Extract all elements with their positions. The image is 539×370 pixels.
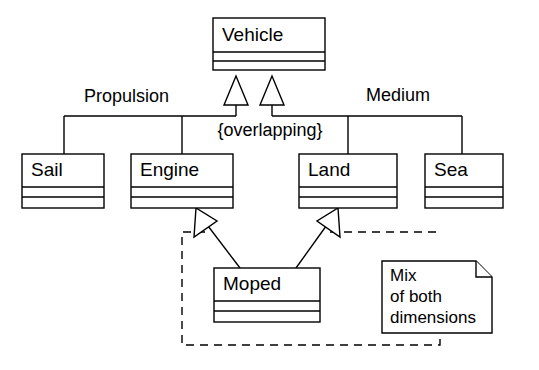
diagram-canvas: Vehicle Sail Engine Land Sea	[0, 0, 539, 370]
note-mix-of-both-dimensions[interactable]: Mix of both dimensions	[382, 261, 492, 333]
connector-moped-to-engine	[205, 222, 240, 268]
generalization-triangle-moped-land	[317, 208, 340, 237]
note-line-2: of both	[390, 287, 442, 306]
connector-moped-to-land	[296, 222, 329, 268]
class-box-vehicle[interactable]: Vehicle	[213, 18, 325, 70]
generalization-triangle-medium	[260, 76, 284, 105]
class-box-sea[interactable]: Sea	[425, 154, 503, 208]
constraint-label-overlapping: {overlapping}	[217, 120, 322, 140]
class-box-engine[interactable]: Engine	[131, 154, 233, 208]
generalization-triangle-propulsion	[224, 76, 248, 105]
class-name-vehicle: Vehicle	[222, 24, 283, 45]
class-name-moped: Moped	[223, 273, 281, 294]
note-line-1: Mix	[390, 266, 417, 285]
class-box-moped[interactable]: Moped	[214, 268, 320, 322]
moped-inheritance-connectors	[205, 222, 329, 268]
class-box-land[interactable]: Land	[299, 154, 397, 208]
uml-class-diagram: Vehicle Sail Engine Land Sea	[0, 0, 539, 370]
note-line-3: dimensions	[390, 308, 476, 327]
edge-label-propulsion: Propulsion	[84, 86, 169, 106]
note-fold-corner-icon	[476, 261, 492, 277]
edge-label-medium: Medium	[366, 85, 430, 105]
class-name-sea: Sea	[434, 159, 468, 180]
class-name-sail: Sail	[31, 159, 63, 180]
class-name-engine: Engine	[140, 159, 199, 180]
class-name-land: Land	[308, 159, 350, 180]
class-box-sail[interactable]: Sail	[22, 154, 104, 208]
